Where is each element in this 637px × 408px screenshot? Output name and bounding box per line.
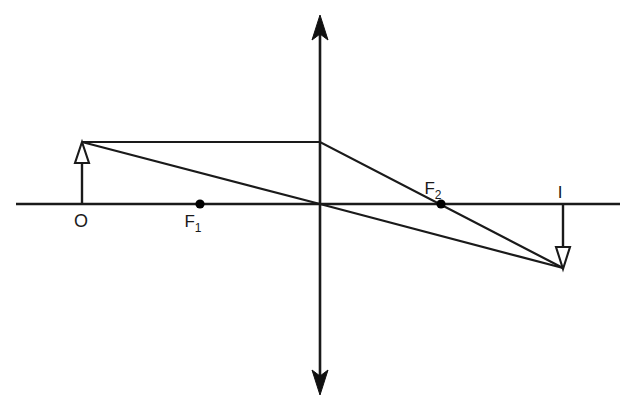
focal-point-2-label-letter: F [424, 179, 434, 198]
focal-point-1-dot [195, 199, 204, 208]
focal-point-1-label: F1 [184, 212, 201, 235]
focal-point-1-label-letter: F [184, 212, 194, 231]
image-label: I [558, 183, 563, 202]
optics-ray-diagram: O F1 F2 I [0, 0, 637, 408]
object-arrowhead-icon [75, 142, 89, 163]
ray-diagram-canvas: O F1 F2 I [0, 0, 637, 408]
object-label: O [74, 211, 88, 231]
focal-point-2-label-subscript: 2 [435, 188, 442, 202]
focal-point-1-label-subscript: 1 [195, 221, 202, 235]
